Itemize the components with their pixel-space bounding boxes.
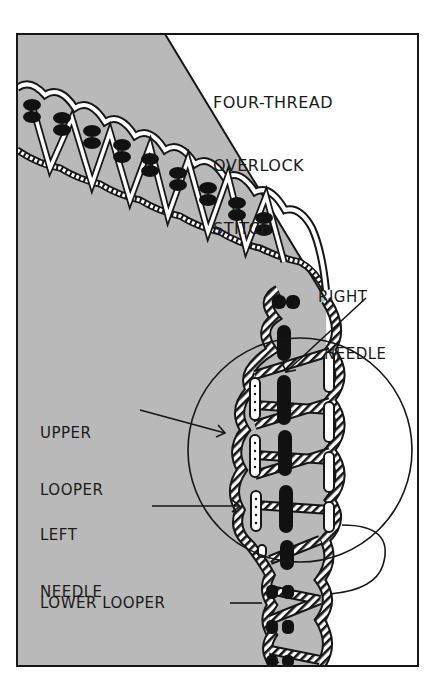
label-right-needle: RIGHT NEEDLE	[318, 250, 387, 402]
title-line-2: OVERLOCK	[213, 155, 333, 176]
label-right-needle-line-1: RIGHT	[318, 288, 387, 307]
label-lower-looper: LOWER LOOPER	[40, 594, 166, 613]
label-upper-looper-line-1: UPPER	[40, 424, 103, 443]
label-right-needle-line-2: NEEDLE	[318, 345, 387, 364]
overlock-stitch-diagram: FOUR-THREAD OVERLOCK STITCH RIGHT NEEDLE…	[0, 0, 436, 687]
title-line-3: STITCH	[213, 218, 333, 239]
label-left-needle: LEFT NEEDLE	[40, 488, 103, 640]
label-left-needle-line-1: LEFT	[40, 526, 103, 545]
diagram-title: FOUR-THREAD OVERLOCK STITCH	[213, 50, 333, 281]
title-line-1: FOUR-THREAD	[213, 92, 333, 113]
